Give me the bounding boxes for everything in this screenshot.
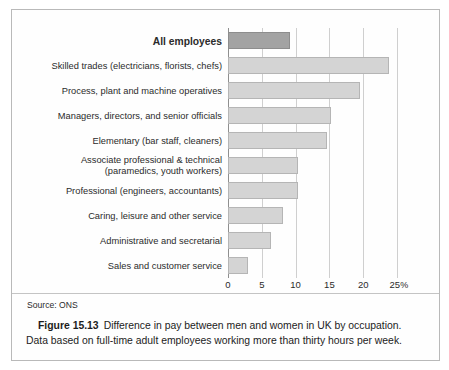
bar: [228, 32, 290, 49]
figure-container: All employeesSkilled trades (electrician…: [0, 0, 449, 370]
gridline-25: [397, 28, 398, 278]
category-label: Process, plant and machine operatives: [2, 85, 222, 96]
category-label: Associate professional & technical (para…: [2, 155, 222, 177]
bar-row: Skilled trades (electricians, florists, …: [228, 57, 397, 74]
bar-row: Process, plant and machine operatives: [228, 82, 397, 99]
category-label: Professional (engineers, accountants): [2, 185, 222, 196]
source-note: Source: ONS: [27, 300, 78, 310]
bar-row: Elementary (bar staff, cleaners): [228, 132, 397, 149]
category-label: Administrative and secretarial: [2, 235, 222, 246]
bar: [228, 182, 298, 199]
x-tick-0: 0: [225, 279, 230, 290]
bar-chart: All employeesSkilled trades (electrician…: [12, 10, 439, 292]
category-label: Sales and customer service: [2, 260, 222, 271]
bar: [228, 132, 327, 149]
category-label: Caring, leisure and other service: [2, 210, 222, 221]
category-label: All employees: [2, 35, 222, 46]
bar: [228, 157, 298, 174]
category-label: Skilled trades (electricians, florists, …: [2, 60, 222, 71]
bar-row: All employees: [228, 32, 397, 49]
bar-row: Associate professional & technical (para…: [228, 157, 397, 174]
bar-row: Caring, leisure and other service: [228, 207, 397, 224]
bar: [228, 107, 331, 124]
bar-row: Administrative and secretarial: [228, 232, 397, 249]
x-axis-unit: %: [400, 280, 408, 290]
category-label: Elementary (bar staff, cleaners): [2, 135, 222, 146]
caption-divider: [12, 293, 439, 294]
caption-line-1: Difference in pay between men and women …: [104, 320, 402, 331]
x-tick-15: 15: [324, 279, 335, 290]
x-tick-20: 20: [358, 279, 369, 290]
bar: [228, 57, 389, 74]
category-label: Managers, directors, and senior official…: [2, 110, 222, 121]
figure-number: Figure 15.13: [38, 320, 99, 331]
bar-row: Professional (engineers, accountants): [228, 182, 397, 199]
bar-row: Managers, directors, and senior official…: [228, 107, 397, 124]
bar-row: Sales and customer service: [228, 257, 397, 274]
bar: [228, 232, 271, 249]
bar-rows: All employeesSkilled trades (electrician…: [228, 28, 397, 278]
bar: [228, 207, 283, 224]
plot-area: All employeesSkilled trades (electrician…: [228, 28, 397, 278]
x-tick-10: 10: [290, 279, 301, 290]
figure-caption: Figure 15.13Difference in pay between me…: [26, 319, 426, 348]
bar: [228, 257, 248, 274]
x-tick-5: 5: [259, 279, 264, 290]
caption-line-2: Data based on full-time adult employees …: [26, 335, 402, 346]
x-tick-25: 25%: [390, 279, 409, 290]
bar: [228, 82, 360, 99]
